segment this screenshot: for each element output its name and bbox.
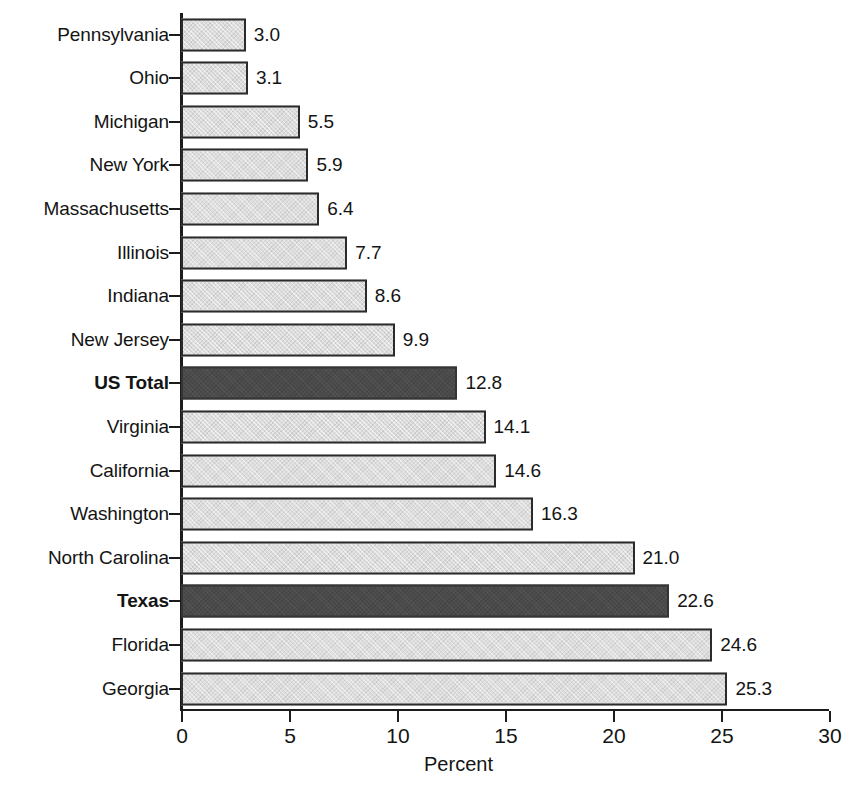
category-label: New York bbox=[90, 154, 169, 176]
y-axis-tick bbox=[169, 164, 181, 166]
category-label: Indiana bbox=[107, 285, 169, 307]
y-axis-tick bbox=[169, 600, 181, 602]
bar-row: California14.6 bbox=[0, 449, 859, 492]
bar bbox=[181, 105, 300, 138]
bar-row: Ohio3.1 bbox=[0, 57, 859, 100]
bar bbox=[181, 410, 486, 443]
bar-chart: Pennsylvania3.0Ohio3.1Michigan5.5New Yor… bbox=[0, 0, 859, 796]
bar-row: Washington16.3 bbox=[0, 493, 859, 536]
x-axis-tick-label: 30 bbox=[818, 724, 841, 748]
x-axis-tick bbox=[505, 711, 507, 722]
y-axis-tick bbox=[169, 688, 181, 690]
bar bbox=[181, 454, 496, 487]
x-axis-title: Percent bbox=[0, 753, 859, 776]
bar-row: US Total12.8 bbox=[0, 362, 859, 405]
category-label: Georgia bbox=[102, 678, 169, 700]
category-label: North Carolina bbox=[48, 547, 169, 569]
bar-value-label: 3.0 bbox=[254, 24, 280, 46]
bar bbox=[181, 585, 669, 618]
y-axis-tick bbox=[169, 339, 181, 341]
category-label: Virginia bbox=[107, 416, 169, 438]
bar-row: Massachusetts6.4 bbox=[0, 187, 859, 230]
bar-row: Texas22.6 bbox=[0, 580, 859, 623]
bar-row: Florida24.6 bbox=[0, 623, 859, 666]
bar bbox=[181, 18, 246, 51]
plot-area: Pennsylvania3.0Ohio3.1Michigan5.5New Yor… bbox=[0, 0, 859, 796]
bar-value-label: 5.9 bbox=[316, 154, 342, 176]
y-axis-tick bbox=[169, 470, 181, 472]
bar-value-label: 25.3 bbox=[735, 678, 772, 700]
category-label: Florida bbox=[112, 634, 169, 656]
x-axis-title-label: Percent bbox=[424, 753, 493, 775]
x-axis-tick-label: 5 bbox=[284, 724, 296, 748]
bar-row: Pennsylvania3.0 bbox=[0, 13, 859, 56]
bar-row: North Carolina21.0 bbox=[0, 536, 859, 579]
y-axis-tick bbox=[169, 557, 181, 559]
bar bbox=[181, 541, 635, 574]
bar bbox=[181, 498, 533, 531]
bar-value-label: 9.9 bbox=[403, 329, 429, 351]
category-label: Texas bbox=[117, 590, 169, 612]
bar-row: Virginia14.1 bbox=[0, 405, 859, 448]
x-axis-tick-label: 10 bbox=[386, 724, 409, 748]
y-axis-tick bbox=[169, 252, 181, 254]
bar bbox=[181, 367, 457, 400]
x-axis-tick bbox=[721, 711, 723, 722]
category-label: Ohio bbox=[129, 67, 169, 89]
bar-row: New Jersey9.9 bbox=[0, 318, 859, 361]
bar-value-label: 3.1 bbox=[256, 67, 282, 89]
bar bbox=[181, 192, 319, 225]
bar bbox=[181, 236, 347, 269]
bar-value-label: 16.3 bbox=[541, 503, 578, 525]
y-axis-tick bbox=[169, 513, 181, 515]
y-axis-tick bbox=[169, 295, 181, 297]
bar-value-label: 24.6 bbox=[720, 634, 757, 656]
bar bbox=[181, 280, 367, 313]
y-axis-tick bbox=[169, 382, 181, 384]
x-axis-tick bbox=[613, 711, 615, 722]
bar-row: Michigan5.5 bbox=[0, 100, 859, 143]
bar-value-label: 12.8 bbox=[465, 372, 502, 394]
y-axis-tick bbox=[169, 34, 181, 36]
x-axis-tick-label: 20 bbox=[602, 724, 625, 748]
x-axis-tick bbox=[397, 711, 399, 722]
bar-value-label: 22.6 bbox=[677, 590, 714, 612]
category-label: Massachusetts bbox=[44, 198, 169, 220]
bar-row: Indiana8.6 bbox=[0, 275, 859, 318]
bar bbox=[181, 149, 308, 182]
bar bbox=[181, 672, 727, 705]
x-axis-tick bbox=[829, 711, 831, 722]
category-label: Washington bbox=[70, 503, 169, 525]
bar-value-label: 7.7 bbox=[355, 242, 381, 264]
x-axis-tick-label: 15 bbox=[494, 724, 517, 748]
y-axis-tick bbox=[169, 426, 181, 428]
bar-row: Georgia25.3 bbox=[0, 667, 859, 710]
y-axis-tick bbox=[169, 208, 181, 210]
category-label: Michigan bbox=[94, 111, 169, 133]
x-axis-tick-label: 25 bbox=[710, 724, 733, 748]
bar-value-label: 6.4 bbox=[327, 198, 353, 220]
bar-value-label: 14.6 bbox=[504, 460, 541, 482]
category-label: California bbox=[90, 460, 169, 482]
x-axis-tick bbox=[181, 711, 183, 722]
bar bbox=[181, 628, 712, 661]
bar-value-label: 8.6 bbox=[375, 285, 401, 307]
y-axis-tick bbox=[169, 644, 181, 646]
x-axis-tick-label: 0 bbox=[176, 724, 188, 748]
bar-row: New York5.9 bbox=[0, 144, 859, 187]
bar bbox=[181, 323, 395, 356]
bar-row: Illinois7.7 bbox=[0, 231, 859, 274]
category-label: US Total bbox=[94, 372, 169, 394]
bar-value-label: 21.0 bbox=[643, 547, 680, 569]
y-axis-tick bbox=[169, 121, 181, 123]
y-axis-tick bbox=[169, 77, 181, 79]
bar-value-label: 14.1 bbox=[494, 416, 531, 438]
x-axis-tick bbox=[289, 711, 291, 722]
category-label: Pennsylvania bbox=[57, 24, 169, 46]
category-label: New Jersey bbox=[71, 329, 169, 351]
bar-value-label: 5.5 bbox=[308, 111, 334, 133]
category-label: Illinois bbox=[117, 242, 169, 264]
bar bbox=[181, 62, 248, 95]
